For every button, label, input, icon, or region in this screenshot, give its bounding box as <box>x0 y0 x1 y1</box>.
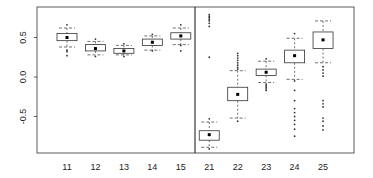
x-tick-label: 23 <box>261 162 271 172</box>
box-11 <box>57 24 77 57</box>
outlier-point <box>294 80 296 82</box>
outlier-point <box>66 49 68 51</box>
outlier-point <box>265 86 267 88</box>
median-marker <box>322 38 325 41</box>
x-tick-label: 25 <box>318 162 328 172</box>
outlier-point <box>180 24 182 26</box>
outlier-point <box>237 60 239 62</box>
box-12 <box>85 38 105 57</box>
outlier-point <box>208 17 210 19</box>
median-marker <box>151 41 154 44</box>
outlier-point <box>294 108 296 110</box>
outlier-point <box>294 120 296 122</box>
outlier-point <box>294 90 296 92</box>
y-tick-label: -0.5 <box>18 109 28 125</box>
outlier-point <box>322 69 324 71</box>
outlier-point <box>237 62 239 64</box>
x-axis: 11121314152122232425 <box>62 162 328 172</box>
x-tick-label: 11 <box>62 162 71 172</box>
x-tick-label: 14 <box>147 162 157 172</box>
outlier-point <box>237 55 239 57</box>
median-marker <box>66 36 69 39</box>
outlier-point <box>237 57 239 59</box>
outlier-point <box>265 83 267 85</box>
y-axis: -0.50.00.5 <box>18 31 37 124</box>
box-25 <box>313 21 333 131</box>
x-tick-label: 13 <box>119 162 129 172</box>
median-marker <box>236 93 239 96</box>
outlier-point <box>294 112 296 114</box>
outlier-point <box>322 72 324 74</box>
median-marker <box>265 71 268 74</box>
box-plot-chart: -0.50.00.5 11121314152122232425 <box>0 0 373 178</box>
outlier-point <box>294 128 296 130</box>
outlier-point <box>237 120 239 122</box>
outlier-point <box>322 120 324 122</box>
outlier-point <box>66 24 68 26</box>
box-21 <box>199 14 219 150</box>
outlier-point <box>208 14 210 16</box>
box-14 <box>142 33 162 51</box>
box-24 <box>285 33 305 138</box>
outlier-point <box>237 64 239 66</box>
outlier-point <box>265 85 267 87</box>
x-tick-label: 15 <box>176 162 186 172</box>
outlier-point <box>237 67 239 69</box>
outlier-point <box>322 117 324 119</box>
outlier-point <box>322 129 324 131</box>
box-15 <box>171 24 191 52</box>
outlier-point <box>66 51 68 53</box>
outlier-point <box>123 56 125 58</box>
outlier-point <box>208 148 210 150</box>
median-marker <box>293 54 296 57</box>
outlier-point <box>265 88 267 90</box>
x-tick-label: 12 <box>90 162 100 172</box>
outlier-point <box>208 20 210 22</box>
outlier-point <box>322 103 324 105</box>
x-tick-label: 24 <box>290 162 300 172</box>
y-tick-label: 0.0 <box>18 71 28 84</box>
outlier-point <box>265 90 267 92</box>
box-13 <box>114 43 134 57</box>
outlier-point <box>294 124 296 126</box>
outlier-point <box>66 55 68 57</box>
outlier-point <box>208 26 210 28</box>
box-22 <box>228 52 248 122</box>
outlier-point <box>180 45 182 47</box>
outlier-point <box>180 50 182 52</box>
outlier-point <box>322 75 324 77</box>
outlier-point <box>151 50 153 52</box>
median-marker <box>122 49 125 52</box>
outlier-point <box>151 33 153 35</box>
outlier-point <box>208 118 210 120</box>
median-marker <box>179 34 182 37</box>
outlier-point <box>208 56 210 58</box>
median-marker <box>94 47 97 50</box>
outlier-point <box>208 15 210 17</box>
outlier-point <box>237 52 239 54</box>
outlier-point <box>208 22 210 24</box>
outlier-point <box>95 56 97 58</box>
outlier-point <box>265 58 267 60</box>
x-tick-label: 22 <box>233 162 243 172</box>
outlier-point <box>123 43 125 45</box>
median-marker <box>208 133 211 136</box>
outlier-point <box>322 100 324 102</box>
outlier-point <box>322 125 324 127</box>
outlier-point <box>294 33 296 35</box>
box-23 <box>256 58 276 91</box>
outlier-point <box>95 38 97 40</box>
outlier-point <box>294 116 296 118</box>
plot-frame <box>37 7 354 153</box>
x-tick-label: 21 <box>204 162 214 172</box>
outlier-point <box>294 135 296 137</box>
y-tick-label: 0.5 <box>18 31 28 44</box>
outlier-point <box>237 68 239 70</box>
outlier-point <box>322 106 324 108</box>
outlier-point <box>322 66 324 68</box>
outlier-point <box>208 18 210 20</box>
outlier-point <box>294 100 296 102</box>
